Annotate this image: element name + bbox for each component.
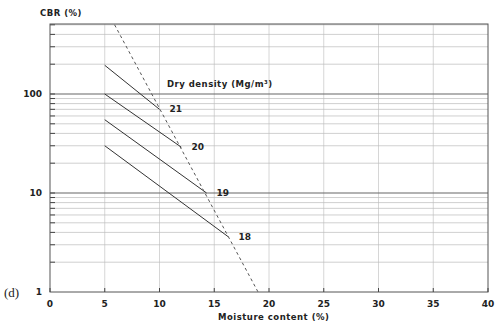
y-axis-ticks: 110100 <box>23 89 42 297</box>
x-axis-ticks: 0510152025303540 <box>47 288 494 309</box>
y-tick-label: 1 <box>36 287 42 297</box>
x-tick-label: 30 <box>372 299 385 309</box>
legend-title: Dry density (Mg/m³) <box>167 79 273 89</box>
density-line-20 <box>105 94 182 147</box>
x-tick-label: 10 <box>153 299 166 309</box>
density-label-18: 18 <box>238 232 251 242</box>
grid <box>50 24 488 292</box>
x-tick-label: 15 <box>208 299 221 309</box>
cbr-chart: 21201918 0510152025303540 110100 CBR (%)… <box>0 0 504 335</box>
y-tick-label: 100 <box>23 89 42 99</box>
y-tick-label: 10 <box>29 188 42 198</box>
x-tick-label: 5 <box>102 299 108 309</box>
x-tick-label: 35 <box>427 299 440 309</box>
panel-label: (d) <box>4 285 19 300</box>
x-axis-label: Moisture content (%) <box>218 312 329 322</box>
density-label-21: 21 <box>170 104 183 114</box>
y-axis-label: CBR (%) <box>40 8 82 18</box>
x-tick-label: 25 <box>317 299 330 309</box>
density-label-20: 20 <box>191 142 204 152</box>
boundary-line <box>115 25 258 292</box>
x-tick-label: 20 <box>263 299 276 309</box>
density-line-18 <box>105 146 229 237</box>
x-tick-label: 0 <box>47 299 53 309</box>
series-group: 21201918 <box>105 25 258 292</box>
x-tick-label: 40 <box>482 299 495 309</box>
density-line-19 <box>105 120 207 193</box>
density-line-21 <box>105 65 160 109</box>
density-label-19: 19 <box>217 188 230 198</box>
